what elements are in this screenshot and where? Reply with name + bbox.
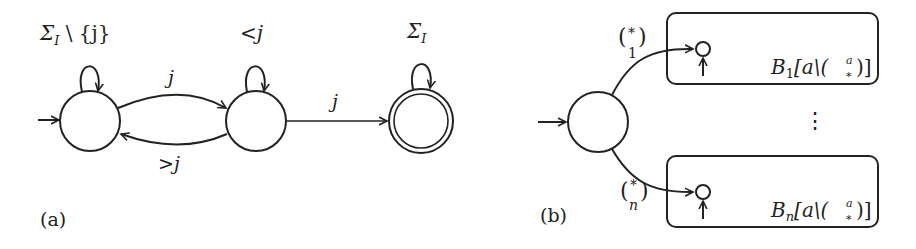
boxn-binom-bottom: * <box>846 213 852 226</box>
box1-binom-top: a <box>846 54 853 67</box>
transition-label-q1-q0: >j <box>158 152 180 174</box>
state-q0[interactable] <box>60 91 120 151</box>
figure-a: ΣI \ {j} j >j <j j ΣI (a) <box>38 19 453 230</box>
svg-text:*: * <box>630 177 637 193</box>
state-q1[interactable] <box>226 91 286 151</box>
box-n: Bn[a\( a * )] <box>667 156 878 227</box>
transition-s0-box1 <box>612 49 693 95</box>
box1-entry-state[interactable] <box>696 42 710 56</box>
self-loop-q1 <box>246 66 265 92</box>
box1-binom-bottom: * <box>846 70 852 83</box>
svg-text:): ) <box>640 178 649 203</box>
boxn-entry-state[interactable] <box>696 185 710 199</box>
self-loop-label-q2: ΣI <box>406 19 427 46</box>
boxn-binom-top: a <box>846 197 853 210</box>
svg-text:(: ( <box>620 178 629 203</box>
caption-b: (b) <box>540 204 567 226</box>
self-loop-q2 <box>412 64 431 89</box>
svg-text:*: * <box>628 25 635 41</box>
boxn-close: )] <box>856 198 872 222</box>
automata-figure: ΣI \ {j} j >j <j j ΣI (a) ( * <box>0 0 916 249</box>
boxn-label: Bn[a\( <box>770 198 830 224</box>
box-1: B1[a\( a * )] <box>667 13 878 84</box>
state-s0[interactable] <box>568 92 628 152</box>
svg-text:n: n <box>629 197 638 213</box>
box1-label: B1[a\( <box>770 55 829 81</box>
self-loop-label-q1: <j <box>240 21 263 45</box>
caption-a: (a) <box>40 208 66 230</box>
transition-label-q0-q1: j <box>164 66 174 88</box>
transition-label-q1-q2: j <box>328 90 338 112</box>
transition-q0-q1 <box>118 95 226 109</box>
svg-text:1: 1 <box>628 45 637 61</box>
box1-close: )] <box>856 55 872 79</box>
state-q2-accepting[interactable] <box>389 89 453 153</box>
transition-q1-q0 <box>121 134 227 145</box>
self-loop-q0 <box>81 66 99 92</box>
edge-label-box1: ( * 1 ) <box>618 24 647 61</box>
svg-text:): ) <box>638 24 647 49</box>
vertical-ellipsis: ⋮ <box>804 108 826 133</box>
svg-text:(: ( <box>618 24 627 49</box>
edge-label-boxn: ( * n ) <box>620 177 649 213</box>
figure-b: ( * 1 ) ( * n ) B1[a\( a * )] ⋮ <box>538 13 878 227</box>
self-loop-label-q0: ΣI \ {j} <box>39 21 110 48</box>
